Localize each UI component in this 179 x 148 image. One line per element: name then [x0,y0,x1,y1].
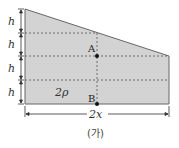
point-a-label: A [87,43,96,54]
height-label-1: h [8,15,15,28]
height-label-3: h [8,62,15,75]
point-a-marker [95,54,99,58]
width-label: 2x [88,108,103,121]
left-dimension-arrows [18,9,24,104]
height-label-4: h [8,86,15,99]
point-b-label: B [88,93,95,104]
figure-caption: (가) [87,128,104,139]
diagram-canvas: h h h h A B 2ρ 2x (가) [0,0,179,148]
point-b-marker [95,102,99,106]
density-label: 2ρ [54,86,69,99]
height-label-2: h [8,38,15,51]
